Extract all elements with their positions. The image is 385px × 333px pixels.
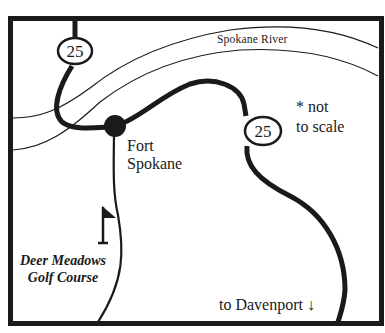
local-road-south [98, 130, 121, 322]
river-label: Spokane River [217, 33, 288, 45]
highway-shield-icon: 25 [245, 117, 281, 145]
town-label-line1: Fort [127, 137, 182, 155]
highway-shield-icon: 25 [58, 38, 92, 64]
scale-note-line2: to scale [296, 117, 344, 137]
scale-note: * not to scale [296, 97, 344, 137]
highway-25-east [118, 81, 246, 125]
golf-label-line2: Golf Course [20, 269, 106, 286]
shield-route-top: 25 [67, 42, 84, 61]
scale-note-line1: * not [296, 97, 344, 117]
golf-flag-icon [98, 206, 116, 243]
town-dot-icon [104, 115, 126, 137]
shield-route-right: 25 [255, 122, 272, 141]
town-label-line2: Spokane [127, 155, 182, 173]
golf-label-line1: Deer Meadows [20, 252, 106, 269]
town-label: Fort Spokane [127, 137, 182, 173]
direction-label: to Davenport ↓ [219, 296, 315, 314]
highway-25-loop [57, 66, 112, 128]
golf-course-label: Deer Meadows Golf Course [20, 252, 106, 286]
